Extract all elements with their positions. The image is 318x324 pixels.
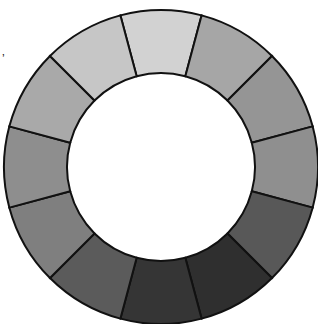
segmented-ring-diagram [0,0,318,324]
